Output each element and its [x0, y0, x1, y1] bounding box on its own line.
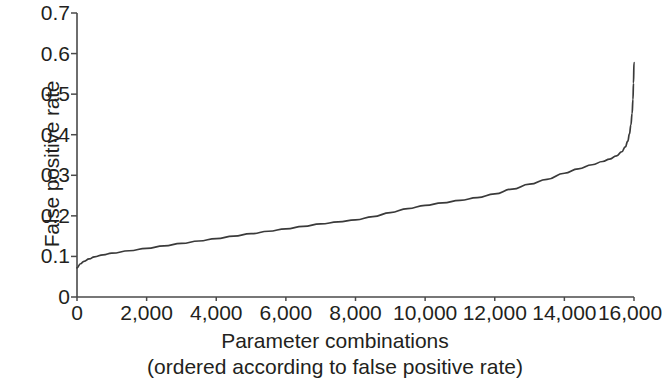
chart-figure: False positive rate 00.10.20.30.40.50.60… — [0, 0, 670, 388]
y-tick-label: 0.2 — [8, 205, 70, 226]
x-axis-title: Parameter combinations (ordered accordin… — [0, 328, 670, 380]
y-tick-label: 0.5 — [8, 83, 70, 104]
x-tick-label: 8,000 — [329, 301, 382, 325]
x-tick-label: 0 — [71, 301, 83, 325]
x-tick-label: 12,000 — [463, 301, 527, 325]
x-tick-label: 2,000 — [120, 301, 173, 325]
x-axis-title-line1: Parameter combinations — [0, 328, 670, 354]
y-tick-label: 0.6 — [8, 43, 70, 64]
x-axis-tick-labels: 02,0004,0006,0008,00010,00012,00014,0001… — [0, 301, 670, 327]
y-tick-label: 0.1 — [8, 245, 70, 266]
x-tick-label: 4,000 — [190, 301, 243, 325]
x-tick-label: 14,000 — [532, 301, 596, 325]
x-tick-label: 10,000 — [393, 301, 457, 325]
axis-lines — [77, 13, 634, 297]
y-tick-label: 0.3 — [8, 164, 70, 185]
y-tick-label: 0.7 — [8, 2, 70, 23]
y-axis-ticks — [71, 13, 77, 297]
x-tick-label: 6,000 — [260, 301, 313, 325]
x-tick-label: 16,000 — [598, 301, 662, 325]
y-tick-label: 0.4 — [8, 124, 70, 145]
x-axis-title-line2: (ordered according to false positive rat… — [0, 354, 670, 380]
data-series-line — [77, 63, 634, 268]
